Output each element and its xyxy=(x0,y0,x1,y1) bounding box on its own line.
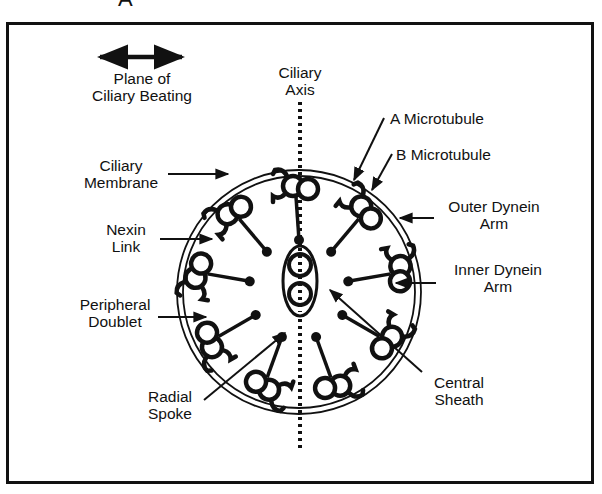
label-line: Membrane xyxy=(76,174,166,191)
label-line: Radial xyxy=(138,388,202,405)
label-ciliary-axis: Ciliary Axis xyxy=(260,64,340,98)
label-line: Peripheral xyxy=(72,296,158,313)
label-plane-of-beating: Plane of Ciliary Beating xyxy=(72,70,212,104)
label-ciliary-membrane: Ciliary Membrane xyxy=(76,157,166,191)
label-line: Link xyxy=(96,238,156,255)
label-line: Arm xyxy=(434,215,554,232)
label-line: Sheath xyxy=(424,391,494,408)
label-line: Ciliary xyxy=(76,157,166,174)
label-line: Central xyxy=(424,374,494,391)
label-line: Arm xyxy=(436,278,560,295)
label-line: Plane of xyxy=(72,70,212,87)
label-line: Axis xyxy=(260,81,340,98)
label-line: Ciliary Beating xyxy=(72,87,212,104)
label-line: Outer Dynein xyxy=(434,198,554,215)
label-b-microtubule: B Microtubule xyxy=(396,146,491,163)
label-nexin-link: Nexin Link xyxy=(96,221,156,255)
label-line: Spoke xyxy=(138,405,202,422)
label-line: Nexin xyxy=(96,221,156,238)
label-line: Doublet xyxy=(72,313,158,330)
label-a-microtubule: A Microtubule xyxy=(390,110,484,127)
label-radial-spoke: Radial Spoke xyxy=(138,388,202,422)
label-inner-dynein-arm: Inner Dynein Arm xyxy=(436,261,560,295)
label-peripheral-doublet: Peripheral Doublet xyxy=(72,296,158,330)
label-outer-dynein-arm: Outer Dynein Arm xyxy=(434,198,554,232)
label-central-sheath: Central Sheath xyxy=(424,374,494,408)
label-line: Ciliary xyxy=(260,64,340,81)
label-line: Inner Dynein xyxy=(436,261,560,278)
